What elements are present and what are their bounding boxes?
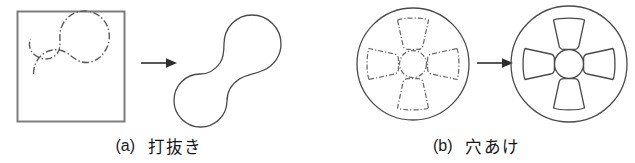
panel-a-label: 打抜き [148,134,203,158]
process-arrow-b [477,58,513,68]
panel-a-index: (a) [115,137,135,155]
blanked-part-outline [174,15,281,127]
panel-a-caption: (a) 打抜き [0,129,318,163]
figure-container: (a) 打抜き [0,0,635,163]
piercing-diagram [318,0,635,128]
panel-b-label: 穴あけ [465,134,520,158]
disc-hole-bottom-dashdot [398,79,429,110]
disc-before [357,8,469,120]
blanking-diagram [0,0,318,128]
disc-hole-left-dashdot [367,49,398,80]
wheel-hole-bottom [554,79,585,110]
disc-outer-circle [357,8,469,120]
panel-b-caption: (b) 穴あけ [318,129,635,163]
wheel-hole-right [584,49,615,80]
wheel-center-hole [555,50,584,79]
wheel-hole-top [554,18,585,49]
sheet-frame [18,12,125,122]
panel-blanking: (a) 打抜き [0,0,318,163]
panel-b-artwork [318,0,635,128]
wheel-hole-left [523,49,554,80]
disc-center-hole-dashdot [400,51,427,78]
disc-hole-right-dashdot [428,49,459,80]
disc-after [511,6,627,122]
disc-hole-top-dashdot [398,18,429,49]
panel-b-index: (b) [433,137,453,155]
panel-piercing: (b) 穴あけ [318,0,635,163]
process-arrow-a [141,58,177,68]
panel-a-artwork [0,0,318,128]
